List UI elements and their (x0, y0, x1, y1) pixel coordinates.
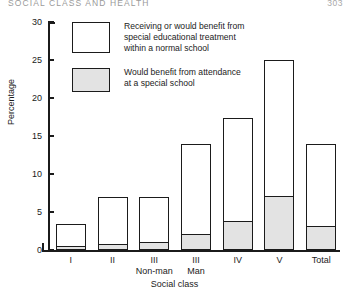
bar-segment-special-school (224, 221, 252, 249)
legend-item-special-school: Would benefit from attendance at a speci… (72, 67, 244, 89)
legend-label: Would benefit from attendance at a speci… (124, 67, 244, 89)
bar-segment-special-school (182, 234, 210, 249)
page-folio: 303 (327, 0, 343, 7)
figure-page: SOCIAL CLASS AND HEALTH 303 Percentage 0… (0, 0, 349, 300)
x-axis-title: Social class (0, 279, 349, 289)
y-tick-label: 30 (16, 17, 42, 27)
bar (98, 197, 128, 250)
bar-segment-special-school (265, 196, 293, 249)
running-head: SOCIAL CLASS AND HEALTH (8, 0, 238, 7)
bar (139, 197, 169, 250)
bar (56, 224, 86, 250)
bar (264, 60, 294, 250)
bar-segment-special-school (57, 246, 85, 249)
y-tick-label: 0 (16, 245, 42, 255)
bar-segment-special-school (140, 242, 168, 249)
bar-segment-special-school (307, 226, 335, 249)
y-tick-label: 10 (16, 169, 42, 179)
legend: Receiving or would benefit from special … (72, 21, 244, 101)
x-axis-line (48, 250, 340, 252)
legend-item-normal-school: Receiving or would benefit from special … (72, 21, 244, 55)
x-tick-label: Total (281, 255, 349, 266)
y-axis-title: Percentage (6, 79, 16, 125)
y-tick-label: 25 (16, 55, 42, 65)
y-tick-label: 5 (16, 207, 42, 217)
bar-segment-special-school (99, 244, 127, 249)
bar (181, 144, 211, 250)
legend-label: Receiving or would benefit from special … (124, 21, 244, 55)
y-tick-label: 15 (16, 131, 42, 141)
bar (223, 118, 253, 250)
y-tick-label: 20 (16, 93, 42, 103)
legend-swatch-open-icon (72, 22, 110, 53)
bar (306, 144, 336, 250)
legend-swatch-shaded-icon (72, 68, 110, 92)
x-axis-left-cap-vertical (42, 243, 44, 251)
